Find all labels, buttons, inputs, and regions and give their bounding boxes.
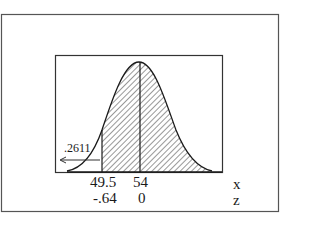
x-tick-mean: 54 bbox=[133, 175, 148, 190]
z-axis-name: z bbox=[233, 193, 240, 208]
z-tick-cutoff: -.64 bbox=[93, 191, 117, 206]
x-axis-name: x bbox=[233, 177, 241, 192]
x-tick-cutoff: 49.5 bbox=[90, 175, 116, 190]
left-tail-area-label: .2611 bbox=[64, 142, 91, 154]
z-tick-mean: 0 bbox=[138, 191, 146, 206]
